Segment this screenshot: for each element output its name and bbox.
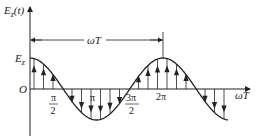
svg-text:2: 2 [129, 105, 134, 116]
x-axis-label: ωT [235, 89, 250, 101]
svg-text:π: π [90, 92, 95, 103]
origin-label: O [19, 83, 27, 95]
svg-text:2π: 2π [156, 91, 166, 102]
period-label: ωT [87, 34, 102, 46]
y-axis-label: Ez(t) [3, 4, 25, 19]
svg-text:2: 2 [51, 105, 56, 116]
tick-label-three-pi-half: 3π 2 [125, 92, 139, 116]
svg-text:3π: 3π [126, 92, 136, 103]
svg-text:π: π [51, 92, 56, 103]
waveform-diagram: Ez(t) ωT Ez O ωT π 2 π 3π 2 2π [0, 0, 263, 140]
tick-label-pi: π [90, 92, 95, 103]
tick-label-two-pi: 2π [156, 91, 166, 102]
tick-label-pi-half: π 2 [49, 92, 58, 116]
amplitude-label: Ez [14, 52, 26, 67]
